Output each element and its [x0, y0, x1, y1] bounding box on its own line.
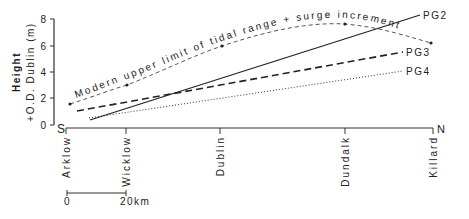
upper-limit-points [68, 22, 432, 105]
y-axis-label-line2: +O.D. Dublin (m) [25, 22, 36, 121]
sea-level-diagram: 8 6 4 2 0 Height +O.D. Dublin (m) S N Ar… [0, 0, 469, 219]
pg2-label: PG2 [423, 10, 448, 21]
south-label: S [57, 122, 65, 136]
upper-limit-curve [70, 24, 431, 104]
location-label-dublin: Dublin [215, 136, 226, 176]
scale-bar [67, 190, 126, 196]
y-tick-label: 0 [40, 120, 46, 131]
scale-bar-end-label: 20km [120, 196, 150, 207]
location-label-killard: Killard [428, 136, 439, 178]
location-label-wicklow: Wicklow [121, 136, 132, 187]
north-label: N [437, 123, 445, 135]
pg3-label: PG3 [406, 47, 431, 58]
y-tick-label: 2 [40, 93, 46, 104]
upper-limit-annotation: Modern upper limit of tidal range + surg… [73, 9, 403, 100]
pg4-label: PG4 [406, 66, 431, 77]
y-tick-label: 6 [40, 41, 46, 52]
y-axis-label-line1: Height [11, 52, 22, 92]
location-label-arklow: Arklow [61, 136, 72, 178]
scale-bar-start-label: 0 [64, 196, 70, 207]
pg4-line [89, 71, 403, 118]
y-tick-label: 4 [40, 67, 46, 78]
location-ticks [66, 128, 433, 134]
location-label-dundalk: Dundalk [340, 136, 351, 187]
y-tick-label: 8 [40, 14, 46, 25]
